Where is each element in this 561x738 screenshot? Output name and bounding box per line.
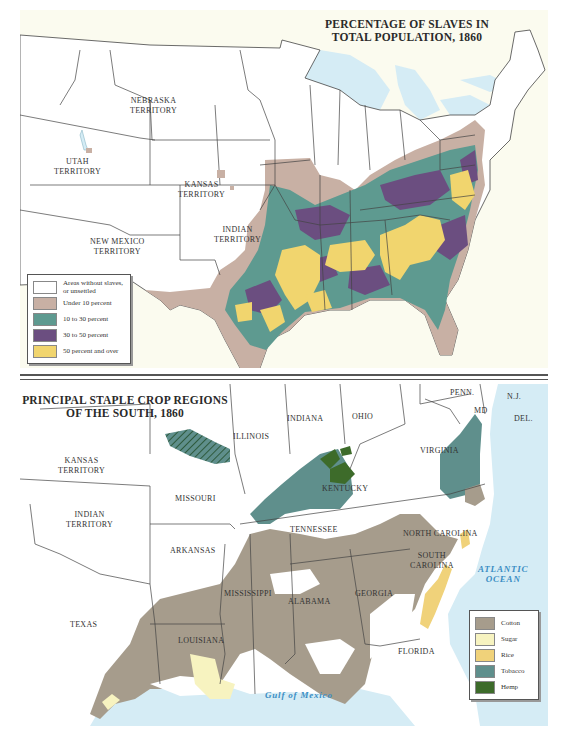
legend-item-no-slaves: Areas without slaves, or unsettled (33, 279, 125, 295)
label-line: KANSAS (178, 180, 225, 190)
legend-swatch (475, 649, 495, 662)
label-nj: N.J. (507, 392, 521, 402)
legend-item-tobacco: Tobacco (475, 663, 533, 679)
slave-percentage-map: PERCENTAGE OF SLAVES IN TOTAL POPULATION… (20, 10, 548, 368)
label-line: TERRITORY (130, 106, 177, 116)
label-line: ATLANTIC (478, 564, 528, 574)
label-line: TERRITORY (66, 520, 113, 530)
legend-item-rice: Rice (475, 647, 533, 663)
top-map-title-line2: TOTAL POPULATION, 1860 (292, 31, 522, 44)
label-indiana: INDIANA (287, 414, 323, 424)
legend-swatch (33, 281, 57, 294)
legend-label: 10 to 30 percent (63, 315, 108, 323)
bottom-map-title: PRINCIPAL STAPLE CROP REGIONS OF THE SOU… (20, 394, 230, 420)
label-line: INDIAN (66, 510, 113, 520)
legend-label: Cotton (501, 619, 520, 627)
legend-item-hemp: Hemp (475, 679, 533, 695)
label-alabama: ALABAMA (288, 597, 331, 607)
staple-crop-map: PRINCIPAL STAPLE CROP REGIONS OF THE SOU… (20, 384, 548, 726)
label-line: SOUTH (410, 551, 454, 561)
legend-label: Areas without slaves, or unsettled (63, 279, 125, 295)
label-line: OCEAN (478, 574, 528, 584)
label-line: NEW MEXICO (90, 237, 145, 247)
label-line: TERRITORY (90, 247, 145, 257)
legend-label: Hemp (501, 683, 518, 691)
legend-swatch (33, 313, 57, 326)
label-virginia: VIRGINIA (420, 446, 459, 456)
legend-item-cotton: Cotton (475, 615, 533, 631)
legend-swatch (33, 345, 57, 358)
label-texas: TEXAS (70, 620, 97, 630)
legend-label: Rice (501, 651, 514, 659)
legend-label: 50 percent and over (63, 347, 118, 355)
label-new-mexico-territory: NEW MEXICO TERRITORY (90, 237, 145, 257)
legend-label: 30 to 50 percent (63, 331, 108, 339)
label-gulf-of-mexico: Gulf of Mexico (265, 690, 333, 700)
label-indian-territory: INDIAN TERRITORY (66, 510, 113, 530)
label-line: NEBRASKA (130, 96, 177, 106)
label-arkansas: ARKANSAS (170, 546, 216, 556)
label-penn: PENN. (450, 388, 474, 398)
legend-swatch (475, 681, 495, 694)
map-divider (20, 374, 548, 380)
top-map-title-line1: PERCENTAGE OF SLAVES IN (292, 18, 522, 31)
label-kansas-territory: KANSAS TERRITORY (58, 456, 105, 476)
legend-item-sugar: Sugar (475, 631, 533, 647)
label-kentucky: KENTUCKY (322, 484, 368, 494)
label-line: TERRITORY (214, 235, 261, 245)
legend-swatch (33, 297, 57, 310)
legend-item-50-plus: 50 percent and over (33, 343, 125, 359)
bottom-map-title-line2: OF THE SOUTH, 1860 (20, 407, 230, 420)
label-louisiana: LOUISIANA (178, 636, 224, 646)
label-illinois: ILLINOIS (233, 432, 269, 442)
label-indian-territory: INDIAN TERRITORY (214, 225, 261, 245)
label-md: MD (474, 406, 488, 416)
label-georgia: GEORGIA (355, 589, 393, 599)
legend-label: Under 10 percent (63, 299, 112, 307)
label-atlantic-ocean: ATLANTIC OCEAN (478, 564, 528, 584)
label-florida: FLORIDA (398, 647, 435, 657)
bottom-map-title-line1: PRINCIPAL STAPLE CROP REGIONS (20, 394, 230, 407)
label-tennessee: TENNESSEE (290, 525, 338, 535)
label-utah-territory: UTAH TERRITORY (54, 157, 101, 177)
legend-swatch (475, 617, 495, 630)
label-south-carolina: SOUTH CAROLINA (410, 551, 454, 571)
top-map-title: PERCENTAGE OF SLAVES IN TOTAL POPULATION… (292, 18, 522, 44)
legend-item-10-to-30: 10 to 30 percent (33, 311, 125, 327)
label-line: CAROLINA (410, 561, 454, 571)
label-line: TERRITORY (54, 167, 101, 177)
label-kansas-territory: KANSAS TERRITORY (178, 180, 225, 200)
label-missouri: MISSOURI (175, 494, 216, 504)
label-nebraska-territory: NEBRASKA TERRITORY (130, 96, 177, 116)
legend-label: Tobacco (501, 667, 525, 675)
label-line: KANSAS (58, 456, 105, 466)
label-north-carolina: NORTH CAROLINA (403, 529, 478, 539)
label-line: TERRITORY (178, 190, 225, 200)
legend-item-under-10: Under 10 percent (33, 295, 125, 311)
label-line: INDIAN (214, 225, 261, 235)
legend-swatch (475, 633, 495, 646)
label-line: UTAH (54, 157, 101, 167)
legend-item-30-to-50: 30 to 50 percent (33, 327, 125, 343)
legend-label: Sugar (501, 635, 517, 643)
label-line: TERRITORY (58, 466, 105, 476)
bottom-map-legend: Cotton Sugar Rice Tobacco Hemp (469, 610, 539, 700)
top-map-legend: Areas without slaves, or unsettled Under… (27, 274, 131, 364)
label-del: DEL. (514, 414, 533, 424)
label-mississippi: MISSISSIPPI (224, 589, 272, 599)
label-ohio: OHIO (352, 412, 373, 422)
legend-swatch (475, 665, 495, 678)
legend-swatch (33, 329, 57, 342)
